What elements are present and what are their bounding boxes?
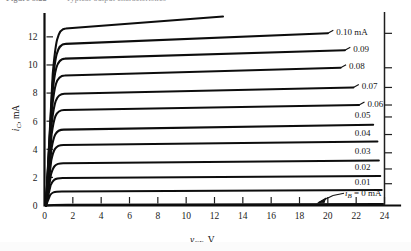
curve-family <box>46 16 383 205</box>
y-tick-label-12: 12 <box>28 32 38 42</box>
ib-zero-arrow-head <box>319 199 326 203</box>
curve-label-0_02: 0.02 <box>355 162 371 172</box>
leader-0_09 <box>345 47 351 50</box>
x-tick-label-6: 6 <box>127 211 132 221</box>
characteristic-curves-plot: 0.10 mA0.090.080.070.060.050.040.030.020… <box>0 0 411 251</box>
curve-label-0_04: 0.04 <box>355 128 371 138</box>
x-tick-label-4: 4 <box>99 211 104 221</box>
curve-ib-0_05 <box>46 125 373 206</box>
y-axis-tick-labels: 024681012 <box>28 32 38 211</box>
x-axis-ticks <box>73 197 385 204</box>
curve-label-0_09: 0.09 <box>353 44 369 54</box>
figure-root: Figure 5.22 Typical output characteristi… <box>0 0 411 251</box>
leader-0_06 <box>359 102 365 105</box>
curve-ib-0_1 <box>46 33 328 205</box>
x-tick-label-22: 22 <box>351 211 361 221</box>
x-axis-tick-labels: 024681012141618202224 <box>42 211 389 221</box>
curve-label-0_06: 0.06 <box>368 99 384 109</box>
curve-label-0_05: 0.05 <box>355 110 371 120</box>
x-tick-label-16: 16 <box>266 211 276 221</box>
curve-ib-0_03 <box>46 161 379 206</box>
x-tick-label-18: 18 <box>295 211 305 221</box>
curve-ib-0_04 <box>46 142 378 206</box>
x-tick-label-24: 24 <box>380 211 390 221</box>
y-tick-label-4: 4 <box>33 145 38 155</box>
curve-label-0_01: 0.01 <box>355 177 371 187</box>
y-tick-label-2: 2 <box>33 173 38 183</box>
y-axis-title-unit: , mA <box>11 105 21 124</box>
leader-0_07 <box>353 84 359 87</box>
curve-label-0_03: 0.03 <box>355 146 371 156</box>
curve-label-0_08: 0.08 <box>349 61 365 71</box>
right-axis-ticks <box>385 33 393 183</box>
y-tick-label-10: 10 <box>28 60 38 70</box>
y-axis-title: iC, mA <box>11 105 23 131</box>
leader-0_1 <box>328 30 334 33</box>
x-tick-label-0: 0 <box>42 211 47 221</box>
ib-zero-rest: = 0 mA <box>352 188 382 198</box>
y-tick-label-8: 8 <box>33 88 38 98</box>
x-tick-label-8: 8 <box>155 211 160 221</box>
curve-label-0_07: 0.07 <box>362 81 378 91</box>
x-tick-label-10: 10 <box>181 211 191 221</box>
bottom-blank-strip <box>0 242 411 251</box>
x-tick-label-20: 20 <box>323 211 333 221</box>
x-tick-label-12: 12 <box>210 211 220 221</box>
leader-0_08 <box>341 65 347 68</box>
x-tick-label-2: 2 <box>70 211 75 221</box>
x-tick-label-14: 14 <box>238 211 248 221</box>
curve-label-0_1: 0.10 mA <box>336 27 368 37</box>
ib-zero-leader <box>333 193 344 195</box>
y-tick-label-0: 0 <box>33 201 38 211</box>
y-tick-label-6: 6 <box>33 117 38 127</box>
